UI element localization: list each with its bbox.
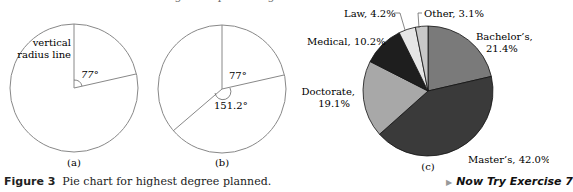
label-bachelors-2: 21.4% — [486, 43, 518, 54]
label-law: Law, 4.2% — [344, 8, 396, 19]
panel-a-circle: vertical radius line 77° (a) — [10, 24, 138, 168]
angle-label-77: 77° — [81, 69, 99, 80]
vertical-label-1: vertical — [32, 37, 71, 48]
caption-label: Figure 3 — [4, 175, 55, 188]
label-bachelors-1: Bachelor’s, — [476, 31, 533, 42]
vertical-label-2: radius line — [17, 49, 71, 60]
now-try-link[interactable]: ▶Now Try Exercise 7 — [446, 175, 573, 188]
label-masters: Master’s, 42.0% — [468, 154, 549, 165]
panel-c-label: (c) — [421, 161, 435, 172]
angle-label-151: 151.2° — [214, 100, 248, 111]
leader-other — [418, 13, 422, 28]
figure-caption: Figure 3 Pie chart for highest degree pl… — [4, 175, 271, 188]
angle-label-77: 77° — [229, 70, 247, 81]
triangle-right-icon: ▶ — [446, 178, 452, 187]
label-other: Other, 3.1% — [424, 8, 484, 19]
panel-a-label: (a) — [67, 157, 81, 168]
caption-text: Pie chart for highest degree planned. — [62, 175, 271, 188]
label-doctorate-2: 19.1% — [318, 98, 350, 109]
now-try-text: Now Try Exercise 7 — [456, 175, 573, 188]
label-doctorate-1: Doctorate, — [301, 86, 355, 97]
panel-b-circle: 77° 151.2° (b) — [158, 25, 286, 168]
label-medical: Medical, 10.2% — [307, 36, 386, 47]
panel-b-label: (b) — [215, 157, 229, 168]
